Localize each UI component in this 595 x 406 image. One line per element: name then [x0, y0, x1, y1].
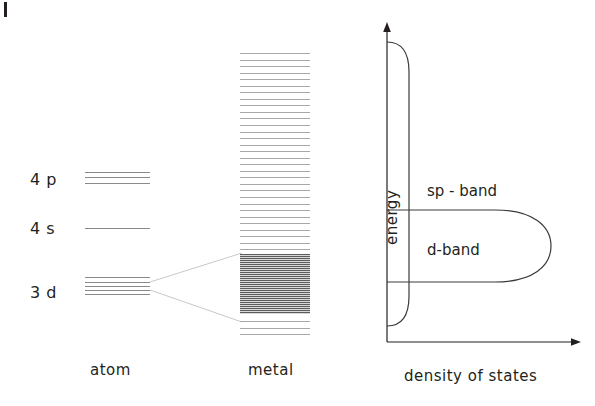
level-line [85, 177, 150, 178]
metal-level-line [240, 164, 310, 165]
level-line [85, 286, 150, 287]
dos-axis-label: density of states [404, 367, 537, 385]
density-of-states-plot: sp - band d-band [375, 14, 590, 359]
level-line [85, 277, 150, 278]
metal-level-line [240, 79, 310, 80]
energy-axis [383, 22, 391, 342]
metal-level-line [240, 99, 310, 100]
atom-level-3d [85, 277, 150, 297]
metal-level-line [240, 171, 310, 172]
metal-level-line [240, 236, 310, 237]
metal-level-line [240, 66, 310, 67]
figure-canvas: 4 p 4 s 3 d atom metal [0, 0, 595, 406]
metal-level-line [240, 223, 310, 224]
metal-level-line [240, 158, 310, 159]
level-line [85, 290, 150, 291]
metal-level-line [240, 177, 310, 178]
sp-band-curve [387, 42, 409, 326]
metal-level-line [240, 210, 310, 211]
atom-level-4s [85, 228, 150, 230]
d-band-label: d-band [427, 241, 480, 259]
crop-mark-icon [4, 2, 7, 17]
metal-level-line [240, 184, 310, 185]
orbital-label-4p: 4 p [30, 170, 57, 189]
dos-axis [387, 338, 581, 346]
metal-level-line [240, 118, 310, 119]
metal-level-line [240, 86, 310, 87]
atom-level-4p [85, 172, 150, 186]
level-line [85, 228, 150, 229]
metal-level-line [240, 53, 310, 54]
metal-level-line [240, 249, 310, 250]
level-to-band-connector [150, 250, 245, 330]
metal-level-line [240, 334, 310, 335]
metal-level-line [240, 105, 310, 106]
level-line [85, 183, 150, 184]
metal-level-line [240, 197, 310, 198]
metal-level-line [240, 243, 310, 244]
metal-level-line [240, 217, 310, 218]
metal-level-line [240, 145, 310, 146]
metal-level-line [240, 138, 310, 139]
metal-level-line [240, 73, 310, 74]
metal-level-line [240, 92, 310, 93]
metal-level-line [240, 204, 310, 205]
metal-band-levels [240, 52, 310, 340]
metal-level-line [240, 151, 310, 152]
metal-level-line [240, 190, 310, 191]
orbital-label-4s: 4 s [30, 219, 55, 238]
level-line [85, 294, 150, 295]
metal-level-line [240, 132, 310, 133]
metal-level-line [240, 321, 310, 322]
metal-level-line [240, 112, 310, 113]
metal-level-line [240, 230, 310, 231]
sp-band-label: sp - band [427, 182, 497, 200]
orbital-label-3d: 3 d [30, 283, 57, 302]
level-line [85, 282, 150, 283]
metal-level-line [240, 125, 310, 126]
metal-dense-d-band [240, 254, 310, 314]
metal-caption: metal [248, 361, 294, 379]
metal-level-line [240, 60, 310, 61]
atom-caption: atom [90, 361, 131, 379]
level-line [85, 172, 150, 173]
energy-axis-label: energy [383, 190, 401, 245]
metal-level-line [240, 328, 310, 329]
